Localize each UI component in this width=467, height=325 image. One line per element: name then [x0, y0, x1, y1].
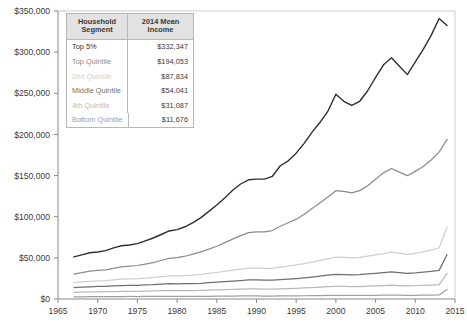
x-tick-label: 1995: [287, 306, 306, 316]
x-tick-label: 2010: [406, 306, 425, 316]
legend-header-segment: Household Segment: [67, 14, 128, 39]
legend-segment-label: Middle Quintile: [67, 84, 128, 99]
y-tick-label: $50,000: [19, 253, 50, 263]
legend-income-value: $332,347: [128, 40, 193, 55]
x-tick-label: 1970: [88, 306, 107, 316]
legend-table: Household Segment 2014 Mean Income Top 5…: [66, 13, 194, 128]
y-tick-label: $100,000: [14, 212, 50, 222]
legend-segment-label: 4th Quintile: [67, 98, 128, 113]
y-axis: $0$50,000$100,000$150,000$200,000$250,00…: [14, 6, 58, 304]
series-line: [74, 139, 447, 274]
legend-segment-label: Bottom Quintile: [67, 113, 129, 128]
series-line: [74, 289, 447, 296]
legend-income-value: $31,087: [128, 98, 193, 113]
series-line: [74, 255, 447, 288]
legend-segment-label: Top 5%: [67, 40, 128, 55]
x-tick-label: 2015: [445, 306, 464, 316]
legend-header-segment-line2: Segment: [71, 26, 123, 34]
y-tick-label: $0: [40, 294, 50, 304]
series-line: [74, 273, 447, 292]
legend-row: 4th Quintile$31,087: [67, 98, 193, 113]
legend-row: Top 5%$332,347: [67, 40, 193, 55]
legend-income-value: $11,676: [129, 113, 193, 128]
series-line: [74, 227, 447, 283]
x-axis: 1965197019751980198519901995200020052010…: [48, 299, 464, 316]
y-tick-label: $150,000: [14, 171, 50, 181]
x-tick-label: 1965: [48, 306, 67, 316]
legend-income-value: $194,053: [128, 55, 193, 70]
legend-segment-label: Top Quintile: [67, 55, 128, 70]
x-tick-label: 2005: [366, 306, 385, 316]
legend-row: 2nd Quintile$87,834: [67, 69, 193, 84]
y-tick-label: $250,000: [14, 88, 50, 98]
x-tick-label: 1975: [128, 306, 147, 316]
legend-header-income: 2014 Mean Income: [128, 14, 193, 39]
legend-row: Top Quintile$194,053: [67, 55, 193, 70]
legend-row: Middle Quintile$54,041: [67, 84, 193, 99]
chart-container: $0$50,000$100,000$150,000$200,000$250,00…: [0, 0, 467, 325]
x-tick-label: 1990: [247, 306, 266, 316]
legend-header-row: Household Segment 2014 Mean Income: [67, 14, 193, 40]
y-tick-label: $300,000: [14, 47, 50, 57]
legend-header-income-line2: Income: [132, 26, 189, 34]
x-tick-label: 2000: [326, 306, 345, 316]
y-tick-label: $350,000: [14, 6, 50, 16]
y-tick-label: $200,000: [14, 130, 50, 140]
legend-segment-label: 2nd Quintile: [67, 69, 128, 84]
legend-income-value: $87,834: [128, 69, 193, 84]
x-tick-label: 1985: [207, 306, 226, 316]
x-tick-label: 1980: [168, 306, 187, 316]
legend-row: Bottom Quintile$11,676: [67, 113, 193, 128]
legend-body: Top 5%$332,347Top Quintile$194,0532nd Qu…: [67, 40, 193, 127]
legend-income-value: $54,041: [128, 84, 193, 99]
